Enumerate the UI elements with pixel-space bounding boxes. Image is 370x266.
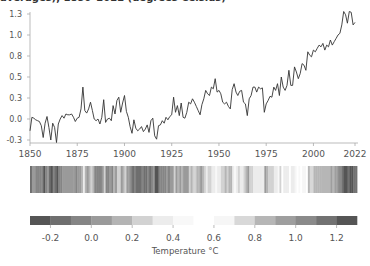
x-tick-label: 1925 xyxy=(160,149,183,159)
y-tick-label: 1.0 xyxy=(9,31,22,40)
colorbar-segment xyxy=(316,216,337,225)
colorbar-segment xyxy=(296,216,317,225)
colorbar-segment xyxy=(50,216,71,225)
stripe xyxy=(355,166,357,193)
colorbar-segment xyxy=(112,216,133,225)
colorbar-segment xyxy=(275,216,296,225)
colorbar-segment xyxy=(194,216,215,225)
temperature-line xyxy=(30,12,355,143)
colorbar-tick-label: 1.0 xyxy=(289,233,304,243)
x-tick-label: 2022 xyxy=(344,149,367,159)
x-tick-label: 1900 xyxy=(113,149,136,159)
colorbar-label: Temperature °C xyxy=(0,246,370,256)
x-tick-label: 1875 xyxy=(66,149,89,159)
colorbar-ticks: -0.20.00.20.40.60.81.01.2 xyxy=(42,225,344,243)
x-tick-label: 1950 xyxy=(208,149,231,159)
x-tick-label: 1850 xyxy=(19,149,42,159)
colorbar-segment xyxy=(173,216,194,225)
colorbar-segment xyxy=(337,216,358,225)
colorbar-segment xyxy=(255,216,276,225)
colorbar-tick-label: 0.6 xyxy=(207,233,222,243)
colorbar-tick-label: -0.2 xyxy=(42,233,60,243)
x-tick-label: 1975 xyxy=(255,149,278,159)
colorbar-tick-label: 0.4 xyxy=(166,233,181,243)
colorbar-tick-label: 0.8 xyxy=(248,233,263,243)
y-tick-label: 1.3 xyxy=(9,10,22,19)
temperature-line-chart: -0.30.00.30.50.81.01.3 18501875190019251… xyxy=(0,0,370,266)
colorbar-segment xyxy=(153,216,174,225)
colorbar-segment xyxy=(91,216,112,225)
colorbar xyxy=(30,216,357,225)
y-tick-label: 0.3 xyxy=(9,94,22,103)
y-tick-label: 0.0 xyxy=(9,115,22,124)
warming-stripes xyxy=(30,166,357,193)
colorbar-tick-label: 0.0 xyxy=(84,233,99,243)
colorbar-segment xyxy=(30,216,51,225)
colorbar-segment xyxy=(214,216,235,225)
y-tick-label: 0.8 xyxy=(9,52,22,61)
colorbar-segment xyxy=(234,216,255,225)
y-axis: -0.30.00.30.50.81.01.3 xyxy=(6,10,30,145)
x-tick-label: 2000 xyxy=(302,149,325,159)
y-tick-label: 0.5 xyxy=(9,73,22,82)
colorbar-tick-label: 0.2 xyxy=(125,233,139,243)
y-tick-label: -0.3 xyxy=(6,136,22,145)
colorbar-segment xyxy=(71,216,92,225)
x-axis: 18501875190019251950197520002022 xyxy=(19,143,367,159)
colorbar-segment xyxy=(132,216,153,225)
colorbar-tick-label: 1.2 xyxy=(329,233,343,243)
